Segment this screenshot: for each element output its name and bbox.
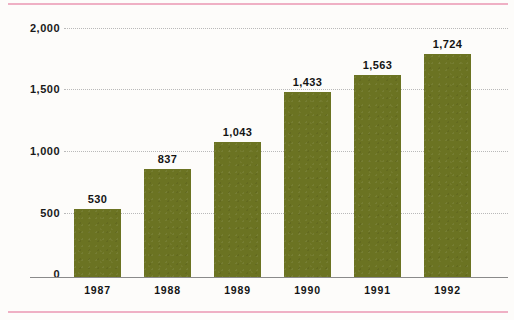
bar-value-label: 837 — [138, 153, 198, 165]
bar[interactable] — [144, 169, 191, 277]
decorative-rule-bottom — [8, 311, 508, 313]
bar[interactable] — [284, 92, 331, 277]
x-axis-line — [30, 277, 508, 278]
x-axis-tick-label: 1988 — [138, 284, 198, 296]
bar-value-label: 1,043 — [208, 126, 268, 138]
bar-value-label: 1,433 — [278, 76, 338, 88]
x-axis-tick-label: 1991 — [348, 284, 408, 296]
bar[interactable] — [354, 75, 401, 277]
x-axis-tick-label: 1989 — [208, 284, 268, 296]
bar-value-label: 530 — [68, 193, 128, 205]
bar-value-label: 1,724 — [418, 38, 478, 50]
x-axis-tick-label: 1990 — [278, 284, 338, 296]
bar-value-label: 1,563 — [348, 59, 408, 71]
x-axis-tick-label: 1987 — [68, 284, 128, 296]
x-axis-tick-label: 1992 — [418, 284, 478, 296]
bar-chart-figure: 2,000 1,500 1,000 500 0 530 837 1,043 1,… — [0, 0, 514, 320]
bar[interactable] — [424, 54, 471, 277]
bar[interactable] — [74, 209, 121, 277]
bar[interactable] — [214, 142, 261, 277]
